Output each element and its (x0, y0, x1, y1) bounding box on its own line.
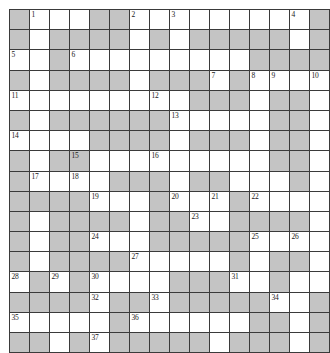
crossword-cell[interactable] (290, 272, 310, 292)
crossword-cell[interactable] (210, 151, 230, 171)
crossword-cell[interactable] (310, 272, 330, 292)
crossword-cell[interactable] (90, 151, 110, 171)
crossword-cell[interactable] (310, 171, 330, 191)
crossword-cell[interactable] (170, 312, 190, 332)
crossword-cell[interactable] (250, 171, 270, 191)
crossword-cell[interactable] (250, 272, 270, 292)
crossword-cell[interactable] (250, 131, 270, 151)
crossword-cell[interactable] (310, 211, 330, 231)
crossword-cell[interactable] (250, 151, 270, 171)
crossword-cell[interactable]: 34 (270, 292, 290, 312)
crossword-cell[interactable]: 10 (310, 70, 330, 90)
crossword-cell[interactable] (190, 50, 210, 70)
crossword-cell[interactable] (30, 151, 50, 171)
crossword-cell[interactable] (210, 110, 230, 130)
crossword-cell[interactable] (190, 191, 210, 211)
crossword-cell[interactable] (150, 10, 170, 30)
crossword-cell[interactable] (50, 333, 70, 353)
crossword-cell[interactable] (150, 50, 170, 70)
crossword-cell[interactable] (90, 50, 110, 70)
crossword-cell[interactable] (50, 90, 70, 110)
crossword-cell[interactable] (290, 70, 310, 90)
crossword-cell[interactable]: 36 (130, 312, 150, 332)
crossword-cell[interactable] (30, 131, 50, 151)
crossword-cell[interactable] (310, 131, 330, 151)
crossword-cell[interactable] (210, 10, 230, 30)
crossword-cell[interactable]: 23 (190, 211, 210, 231)
crossword-cell[interactable] (190, 10, 210, 30)
crossword-cell[interactable] (70, 131, 90, 151)
crossword-cell[interactable]: 32 (90, 292, 110, 312)
crossword-cell[interactable] (130, 232, 150, 252)
crossword-cell[interactable] (210, 50, 230, 70)
crossword-cell[interactable] (170, 171, 190, 191)
crossword-cell[interactable] (230, 151, 250, 171)
crossword-cell[interactable]: 16 (150, 151, 170, 171)
crossword-cell[interactable]: 9 (270, 70, 290, 90)
crossword-cell[interactable] (130, 151, 150, 171)
crossword-cell[interactable] (170, 30, 190, 50)
crossword-cell[interactable]: 14 (10, 131, 30, 151)
crossword-cell[interactable] (250, 110, 270, 130)
crossword-cell[interactable] (70, 90, 90, 110)
crossword-cell[interactable] (310, 110, 330, 130)
crossword-cell[interactable] (30, 252, 50, 272)
crossword-cell[interactable] (30, 232, 50, 252)
crossword-cell[interactable] (310, 232, 330, 252)
crossword-cell[interactable]: 22 (250, 191, 270, 211)
crossword-cell[interactable]: 19 (90, 191, 110, 211)
crossword-cell[interactable] (310, 252, 330, 272)
crossword-cell[interactable] (230, 10, 250, 30)
crossword-cell[interactable] (110, 232, 130, 252)
crossword-cell[interactable]: 28 (10, 272, 30, 292)
crossword-cell[interactable] (30, 70, 50, 90)
crossword-cell[interactable] (70, 10, 90, 30)
crossword-cell[interactable] (310, 191, 330, 211)
crossword-cell[interactable] (270, 171, 290, 191)
crossword-cell[interactable] (130, 70, 150, 90)
crossword-cell[interactable]: 8 (250, 70, 270, 90)
crossword-cell[interactable] (290, 30, 310, 50)
crossword-cell[interactable] (210, 211, 230, 231)
crossword-cell[interactable]: 27 (130, 252, 150, 272)
crossword-cell[interactable] (190, 110, 210, 130)
crossword-cell[interactable] (30, 30, 50, 50)
crossword-cell[interactable] (30, 90, 50, 110)
crossword-cell[interactable] (130, 90, 150, 110)
crossword-cell[interactable] (210, 333, 230, 353)
crossword-cell[interactable] (250, 252, 270, 272)
crossword-cell[interactable] (250, 90, 270, 110)
crossword-cell[interactable]: 4 (290, 10, 310, 30)
crossword-cell[interactable]: 37 (90, 333, 110, 353)
crossword-cell[interactable]: 18 (70, 171, 90, 191)
crossword-cell[interactable] (270, 191, 290, 211)
crossword-cell[interactable]: 12 (150, 90, 170, 110)
crossword-cell[interactable]: 21 (210, 191, 230, 211)
crossword-cell[interactable] (290, 312, 310, 332)
crossword-cell[interactable] (70, 312, 90, 332)
crossword-cell[interactable]: 31 (230, 272, 250, 292)
crossword-cell[interactable]: 30 (90, 272, 110, 292)
crossword-grid[interactable]: 1234567891011121314151617181920212223242… (9, 9, 330, 353)
crossword-cell[interactable] (110, 151, 130, 171)
crossword-cell[interactable]: 33 (150, 292, 170, 312)
crossword-cell[interactable] (110, 90, 130, 110)
crossword-cell[interactable] (50, 312, 70, 332)
crossword-cell[interactable] (150, 272, 170, 292)
crossword-cell[interactable]: 13 (170, 110, 190, 130)
crossword-cell[interactable] (230, 110, 250, 130)
crossword-cell[interactable] (50, 131, 70, 151)
crossword-cell[interactable] (210, 312, 230, 332)
crossword-cell[interactable] (130, 272, 150, 292)
crossword-cell[interactable] (310, 90, 330, 110)
crossword-cell[interactable] (250, 10, 270, 30)
crossword-cell[interactable] (30, 211, 50, 231)
crossword-cell[interactable]: 6 (70, 50, 90, 70)
crossword-cell[interactable]: 7 (210, 70, 230, 90)
crossword-cell[interactable]: 1 (30, 10, 50, 30)
crossword-cell[interactable] (90, 90, 110, 110)
crossword-cell[interactable] (110, 272, 130, 292)
crossword-cell[interactable] (230, 171, 250, 191)
crossword-cell[interactable] (50, 10, 70, 30)
crossword-cell[interactable] (270, 10, 290, 30)
